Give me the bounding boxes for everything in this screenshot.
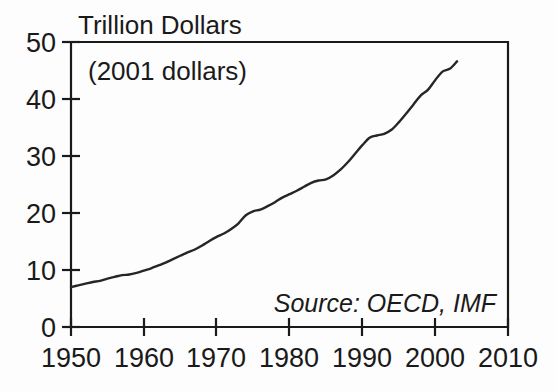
x-axis-label-1990: 1990 bbox=[332, 343, 392, 373]
data-series-line bbox=[71, 61, 457, 287]
y-axis-tick-labels: 50 40 30 20 10 0 bbox=[26, 28, 56, 343]
y-axis-label-20: 20 bbox=[26, 199, 56, 229]
line-chart: 50 40 30 20 10 0 1950 1960 1970 1980 199… bbox=[0, 0, 556, 392]
y-axis-label-10: 10 bbox=[26, 256, 56, 286]
source-annotation: Source: OECD, IMF bbox=[274, 289, 498, 317]
x-axis-label-2000: 2000 bbox=[405, 343, 465, 373]
y-axis-label-50: 50 bbox=[26, 28, 56, 58]
x-axis-label-1950: 1950 bbox=[41, 343, 101, 373]
y-axis-label-30: 30 bbox=[26, 142, 56, 172]
x-axis-label-1980: 1980 bbox=[259, 343, 319, 373]
x-axis-label-1960: 1960 bbox=[114, 343, 174, 373]
x-axis-label-1970: 1970 bbox=[186, 343, 246, 373]
y-axis-label-0: 0 bbox=[41, 313, 56, 343]
x-axis-tick-labels: 1950 1960 1970 1980 1990 2000 2010 bbox=[41, 343, 538, 373]
chart-title: Trillion Dollars bbox=[78, 10, 242, 40]
x-axis-label-2010: 2010 bbox=[478, 343, 538, 373]
chart-figure: 50 40 30 20 10 0 1950 1960 1970 1980 199… bbox=[0, 0, 556, 392]
y-axis-label-40: 40 bbox=[26, 85, 56, 115]
chart-subtitle: (2001 dollars) bbox=[88, 56, 247, 86]
